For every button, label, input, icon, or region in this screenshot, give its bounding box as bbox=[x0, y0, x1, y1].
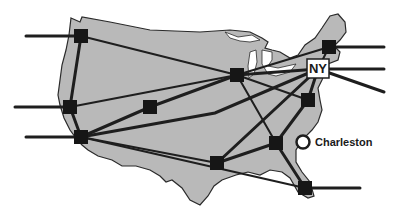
charleston-label: Charleston bbox=[315, 136, 373, 148]
node-seattle[interactable] bbox=[74, 29, 88, 43]
location-circle-icon bbox=[297, 136, 310, 149]
node-dallas[interactable] bbox=[210, 156, 224, 170]
node-chicago[interactable] bbox=[230, 68, 244, 82]
network-map: NY Charleston bbox=[0, 0, 400, 218]
node-atlanta[interactable] bbox=[269, 136, 283, 150]
node-los-angeles[interactable] bbox=[74, 130, 88, 144]
node-denver[interactable] bbox=[143, 100, 157, 114]
node-bay-area[interactable] bbox=[63, 100, 77, 114]
node-washington[interactable] bbox=[301, 93, 315, 107]
charleston-marker[interactable]: Charleston bbox=[297, 136, 373, 149]
node-boston[interactable] bbox=[322, 40, 336, 54]
hub-ny[interactable]: NY bbox=[307, 59, 329, 78]
hub-ny-label: NY bbox=[309, 61, 327, 76]
node-miami[interactable] bbox=[298, 181, 312, 195]
